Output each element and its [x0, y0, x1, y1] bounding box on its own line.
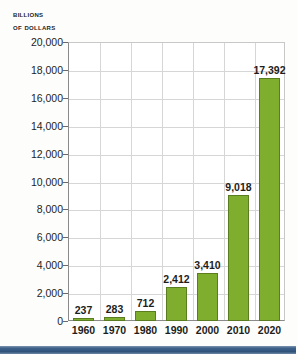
y-axis-tick-label: 20,000 — [0, 37, 63, 47]
y-axis-tick-label: 4,000 — [0, 260, 63, 270]
y-axis-labels: 02,0004,0006,0008,00010,00012,00014,0001… — [0, 0, 63, 360]
x-axis-labels: 1960197019801990200020102020 — [68, 324, 285, 340]
y-axis-tick-label: 0 — [0, 316, 63, 326]
bar — [135, 311, 156, 321]
y-axis-tick-label: 18,000 — [0, 65, 63, 75]
bar — [166, 287, 187, 321]
y-axis-tick-label: 14,000 — [0, 121, 63, 131]
footer-band — [0, 346, 296, 354]
y-axis-tick-label: 12,000 — [0, 149, 63, 159]
y-axis-tick-label: 16,000 — [0, 93, 63, 103]
y-axis-tick-label: 2,000 — [0, 288, 63, 298]
bar — [259, 78, 280, 321]
bars-layer: 2372837122,4123,4109,01817,392 — [68, 42, 285, 321]
y-axis-tick-label: 6,000 — [0, 232, 63, 242]
bar — [104, 317, 125, 321]
bar — [228, 195, 249, 321]
y-axis-tick — [63, 321, 68, 322]
bar-chart-figure: Billions of dollars 02,0004,0006,0008,00… — [0, 0, 296, 360]
x-axis-tick-label: 2020 — [250, 324, 290, 336]
bar — [197, 273, 218, 321]
bar — [73, 318, 94, 321]
y-axis-tick-label: 10,000 — [0, 177, 63, 187]
y-axis-tick-label: 8,000 — [0, 204, 63, 214]
bar-value-label: 17,392 — [242, 65, 297, 76]
